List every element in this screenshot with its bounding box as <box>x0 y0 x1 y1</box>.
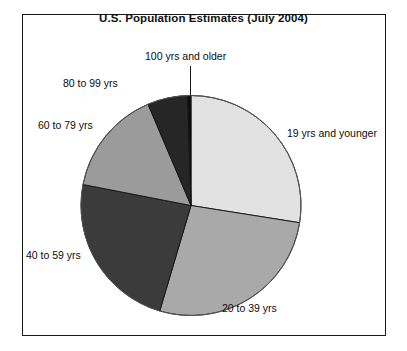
chart-page: U.S. Population Estimates (July 2004) 10… <box>0 0 407 351</box>
pie-label-100-and-older: 100 yrs and older <box>145 51 226 63</box>
pie-label-20-to-39: 20 to 39 yrs <box>222 303 277 315</box>
pie-label-60-to-79: 60 to 79 yrs <box>38 120 93 132</box>
pie-label-19-and-younger: 19 yrs and younger <box>287 128 377 140</box>
pie-label-40-to-59: 40 to 59 yrs <box>26 250 81 262</box>
leader-line-100-and-older <box>190 66 191 100</box>
chart-title: U.S. Population Estimates (July 2004) <box>0 12 407 24</box>
pie-label-80-to-99: 80 to 99 yrs <box>63 78 118 90</box>
